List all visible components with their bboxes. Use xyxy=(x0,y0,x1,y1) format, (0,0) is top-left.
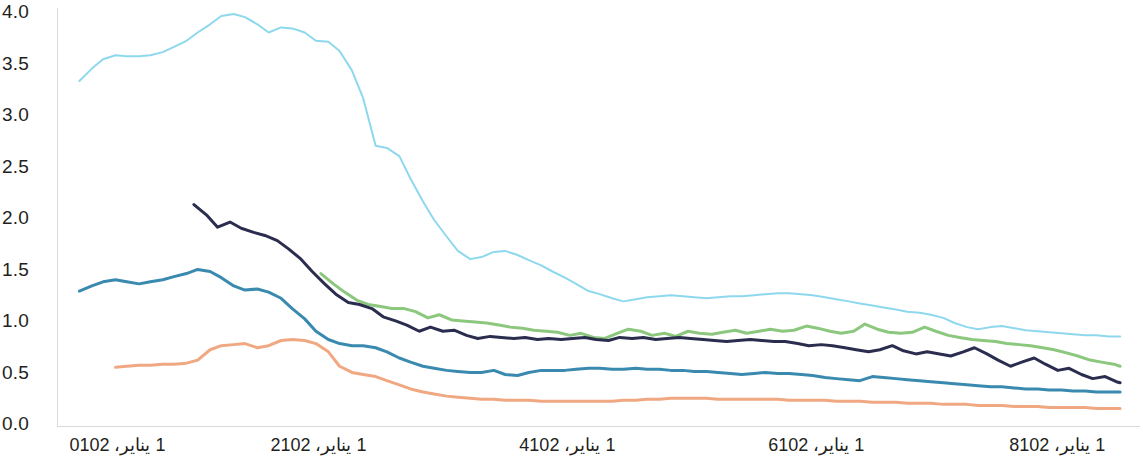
series-green xyxy=(321,274,1120,367)
plot-area xyxy=(0,0,1143,465)
series-steel-blue xyxy=(79,269,1120,392)
line-chart: 4.03.53.02.52.01.51.00.50.0 1 يناير، 201… xyxy=(0,0,1143,465)
